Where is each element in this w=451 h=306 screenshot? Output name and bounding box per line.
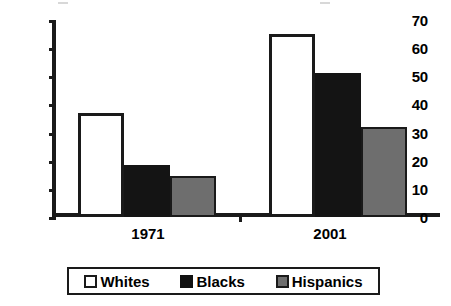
x-axis-category-2001: 2001	[270, 225, 390, 242]
scan-artifact-left	[58, 2, 68, 4]
y-tick-mark	[49, 133, 56, 136]
chart-legend: Whites Blacks Hispanics	[67, 267, 380, 295]
y-tick-mark	[49, 161, 56, 164]
legend-swatch-blacks-icon	[180, 275, 193, 288]
bar-whites-2001	[269, 34, 315, 217]
x-axis-category-1971: 1971	[88, 225, 208, 242]
y-tick-mark	[49, 104, 56, 107]
y-tick-mark	[49, 189, 56, 192]
plot-area: 706050403020100	[56, 20, 440, 217]
bar-blacks-1971	[124, 165, 170, 217]
bar-whites-1971	[78, 113, 124, 217]
legend-item-whites: Whites	[84, 274, 149, 289]
y-tick-label: 60	[388, 40, 428, 57]
x-axis-minor-tick	[239, 217, 242, 222]
legend-swatch-whites-icon	[84, 275, 97, 288]
bar-hispanics-1971	[170, 176, 216, 217]
y-tick-mark	[49, 76, 56, 79]
bar-hispanics-2001	[361, 127, 407, 217]
legend-swatch-hispanics-icon	[276, 275, 289, 288]
bar-blacks-2001	[315, 73, 361, 217]
scan-artifact-right	[320, 2, 330, 4]
y-tick-mark	[49, 217, 56, 220]
y-tick-label: 70	[388, 12, 428, 29]
bar-chart: 706050403020100 1971 2001 Whites Blacks …	[0, 0, 451, 306]
legend-label-blacks: Blacks	[196, 274, 244, 289]
legend-item-blacks: Blacks	[180, 274, 244, 289]
legend-label-hispanics: Hispanics	[292, 274, 363, 289]
y-tick-mark	[49, 48, 56, 51]
y-tick-label: 40	[388, 96, 428, 113]
y-tick-mark	[49, 20, 56, 23]
y-tick-label: 50	[388, 68, 428, 85]
legend-item-hispanics: Hispanics	[276, 274, 363, 289]
legend-label-whites: Whites	[100, 274, 149, 289]
